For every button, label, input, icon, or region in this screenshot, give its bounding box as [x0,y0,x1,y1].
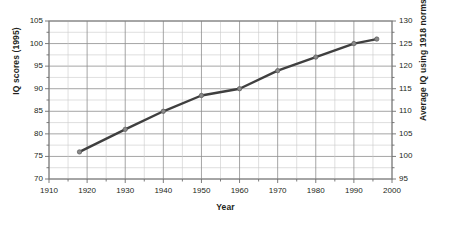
y-axis-right-tick-label: 115 [399,84,425,93]
data-point [161,109,165,113]
data-point [77,150,81,154]
x-axis-tick-label: 1930 [105,186,145,195]
x-axis-tick-label: 1990 [334,186,374,195]
y-axis-left-tick-label: 100 [17,39,43,48]
x-axis-tick-label: 1980 [296,186,336,195]
y-axis-right-tick-label: 110 [399,106,425,115]
x-axis-tick-label: 1960 [220,186,260,195]
y-axis-right-tick-label: 105 [399,129,425,138]
x-axis-tick-label: 1950 [181,186,221,195]
x-axis-tick-label: 1920 [67,186,107,195]
y-axis-right-tick-label: 100 [399,151,425,160]
y-axis-left-tick-label: 90 [17,84,43,93]
x-axis-tick-label: 1940 [143,186,183,195]
y-axis-right-tick-label: 130 [399,16,425,25]
y-axis-right-tick-label: 120 [399,61,425,70]
data-point [275,68,279,72]
x-axis-tick-label: 1970 [258,186,298,195]
y-axis-left-tick-label: 75 [17,151,43,160]
y-axis-left-tick-label: 70 [17,174,43,183]
y-axis-left-tick-label: 85 [17,106,43,115]
y-axis-right-tick-label: 95 [399,174,425,183]
data-point [352,41,356,45]
iq-trend-line-chart: IQ scores (1995) Average IQ using 1918 n… [0,0,451,227]
y-axis-right-tick-label: 125 [399,39,425,48]
data-point [237,87,241,91]
x-axis-tick-label: 2000 [372,186,412,195]
data-point [375,37,379,41]
x-axis-tick-label: 1910 [29,186,69,195]
data-point [123,127,127,131]
y-axis-left-tick-label: 95 [17,61,43,70]
data-point [314,55,318,59]
data-point [199,93,203,97]
data-line [79,39,376,152]
data-markers [77,37,379,154]
y-axis-left-tick-label: 80 [17,129,43,138]
y-axis-left-tick-label: 105 [17,16,43,25]
